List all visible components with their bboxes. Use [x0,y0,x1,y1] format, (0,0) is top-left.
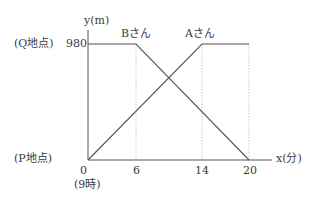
y-tick-980: 980 [66,38,87,50]
series-b-label: Bさん [121,28,151,40]
x-axis-label: x(分) [276,153,302,165]
x-tick-14: 14 [195,165,209,177]
y-axis-label: y(m) [84,15,109,27]
x-tick-6: 6 [133,165,140,177]
p-point-label: (P地点) [14,153,52,165]
start-time-label: (9時) [74,179,101,191]
series-a-line [88,44,249,160]
x-tick-20: 20 [243,165,257,177]
x-tick-0: 0 [80,165,87,177]
chart-plot [0,0,319,198]
q-point-label: (Q地点) [14,38,54,50]
series-b-line [88,44,249,160]
series-a-label: Aさん [185,28,215,40]
